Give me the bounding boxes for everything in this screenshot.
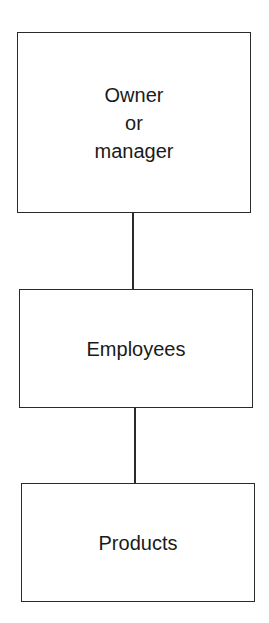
connector-employees-products [134, 408, 136, 484]
connector-owner-employees [132, 213, 134, 290]
node-label: Employees [87, 335, 186, 363]
node-owner-or-manager: Owner or manager [17, 32, 251, 213]
node-products: Products [21, 483, 255, 602]
node-label: Owner or manager [95, 81, 174, 165]
node-label: Products [99, 529, 178, 557]
node-employees: Employees [19, 289, 253, 408]
